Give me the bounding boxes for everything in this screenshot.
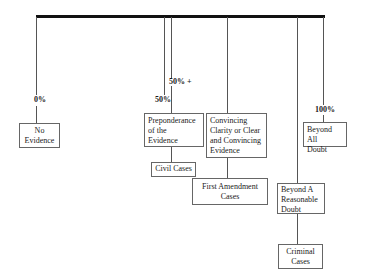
- box-civil-cases-line-1: Civil Cases: [154, 164, 193, 174]
- label-zero-percent: 0%: [34, 96, 46, 104]
- box-beyond-all-doubt-line-2: Doubt: [307, 145, 343, 155]
- box-no-evidence-line-1: No: [23, 126, 56, 136]
- connector-reasonable-doubt-to-criminal: [297, 214, 298, 244]
- box-convincing-line-1: Convincing: [210, 116, 263, 126]
- connector-fifty-plus: [171, 17, 172, 113]
- box-clear-and-convincing: Convincing Clarity or Clear and Convinci…: [206, 113, 267, 158]
- box-preponderance-line-3: Evidence: [148, 136, 200, 146]
- box-beyond-reasonable-doubt: Beyond A Reasonable Doubt: [277, 183, 325, 214]
- evidence-scale-bar: [36, 15, 325, 18]
- box-criminal-line-2: Cases: [282, 257, 319, 267]
- connector-hundred-to-box: [323, 115, 324, 122]
- connector-convincing: [227, 17, 228, 113]
- box-preponderance-line-1: Preponderance: [148, 116, 200, 126]
- box-criminal-cases: Criminal Cases: [278, 244, 323, 269]
- box-reasonable-doubt-line-3: Doubt: [281, 205, 321, 215]
- box-no-evidence: No Evidence: [19, 123, 60, 148]
- box-beyond-all-doubt: Beyond All Doubt: [303, 122, 347, 147]
- box-first-amendment-line-1: First Amendment: [196, 182, 264, 192]
- box-reasonable-doubt-line-1: Beyond A: [281, 185, 321, 195]
- box-criminal-line-1: Criminal: [282, 247, 319, 257]
- connector-convincing-to-first-amendment: [227, 158, 228, 178]
- box-first-amendment-cases: First Amendment Cases: [192, 178, 268, 205]
- box-convincing-line-4: Evidence: [210, 146, 263, 156]
- connector-zero-to-box: [36, 106, 37, 123]
- label-fifty-percent: 50%: [155, 96, 171, 104]
- label-fifty-plus-percent: 50% +: [168, 78, 193, 86]
- connector-reasonable-doubt: [297, 17, 298, 183]
- connector-hundred: [323, 17, 324, 105]
- box-reasonable-doubt-line-2: Reasonable: [281, 195, 321, 205]
- box-no-evidence-line-2: Evidence: [23, 136, 56, 146]
- box-preponderance-line-2: of the: [148, 126, 200, 136]
- box-civil-cases: Civil Cases: [151, 162, 196, 177]
- connector-fifty: [164, 17, 165, 95]
- box-convincing-line-3: and Convincing: [210, 136, 263, 146]
- box-beyond-all-doubt-line-1: Beyond All: [307, 125, 343, 145]
- connector-preponderance-to-civil: [171, 147, 172, 162]
- label-hundred-percent: 100%: [315, 106, 335, 114]
- box-first-amendment-line-2: Cases: [196, 192, 264, 202]
- box-preponderance-of-evidence: Preponderance of the Evidence: [144, 113, 204, 147]
- connector-zero: [36, 17, 37, 95]
- box-convincing-line-2: Clarity or Clear: [210, 126, 263, 136]
